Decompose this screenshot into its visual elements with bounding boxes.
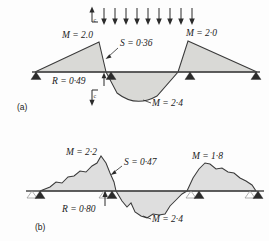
shear-label-a: S = 0·36 [120, 38, 153, 48]
panel-a: c M = 2.0 S = 0·36 M = 2·0 [17, 7, 261, 113]
reaction-arrow-a [102, 73, 107, 87]
support-right-a [251, 72, 261, 80]
moment-area-sag-a [106, 72, 178, 101]
support-mid-right-b [194, 191, 204, 199]
shear-label-b: S = 0·47 [124, 157, 158, 167]
support-right-b [253, 191, 263, 199]
depth-scale-label-a: c [94, 93, 97, 99]
moment-sag-label-a: M = 2·4 [151, 98, 183, 108]
support-left-a [31, 72, 41, 80]
panel-b: M = 2·2 S = 0·47 M = 1·8 R = 0·80 M = 2·… [26, 147, 264, 232]
moment-left-label-b: M = 2·2 [65, 147, 97, 157]
panel-label-b: (b) [35, 222, 46, 232]
support-left-b [35, 191, 45, 199]
panel-label-a: (a) [17, 102, 28, 112]
distributed-load-arrows [101, 8, 195, 25]
moment-area-right-b [187, 163, 256, 191]
reaction-label-a: R = 0·49 [51, 76, 86, 86]
moment-area-right-a [178, 41, 257, 72]
moment-right-label-b: M = 1·8 [191, 151, 223, 161]
support-mid-right-a [185, 72, 195, 80]
support-ghost-left-b [27, 191, 37, 198]
figure-canvas: c M = 2.0 S = 0·36 M = 2·0 [0, 0, 269, 241]
shear-leader-a [106, 48, 119, 59]
moment-area-left-b [40, 156, 116, 191]
moment-right-label-a: M = 2·0 [185, 28, 217, 38]
moment-area-left-a [35, 42, 106, 72]
moment-left-label-a: M = 2.0 [61, 30, 93, 40]
support-ghost-mid-right-b [186, 191, 196, 198]
reaction-label-b: R = 0·80 [61, 204, 96, 214]
moment-sag-label-b: M = 2·4 [151, 214, 183, 224]
load-scale-label-top: c [94, 17, 97, 23]
support-mid-left-b [107, 191, 117, 199]
bending-moment-figure: c M = 2.0 S = 0·36 M = 2·0 [0, 0, 269, 241]
support-ghost-right-b [245, 191, 255, 198]
shear-leader-b [111, 166, 122, 175]
